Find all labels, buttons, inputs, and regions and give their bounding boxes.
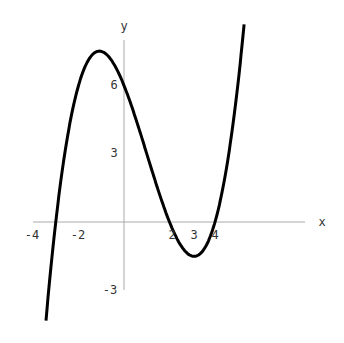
x-tick-label: 4: [211, 228, 218, 242]
function-plot: x y -4 -2 2 3 4 6 3 -3: [0, 0, 344, 343]
x-tick-label: 2: [168, 228, 175, 242]
x-axis-label: x: [318, 215, 325, 229]
plot-canvas: [0, 0, 344, 343]
function-curve: [46, 24, 244, 320]
x-tick-label: -4: [25, 228, 39, 242]
y-tick-label: -3: [103, 283, 117, 297]
x-tick-label: -2: [71, 228, 85, 242]
x-tick-label: 3: [190, 228, 197, 242]
y-axis-label: y: [120, 19, 127, 33]
y-tick-label: 6: [110, 78, 117, 92]
y-tick-label: 3: [110, 146, 117, 160]
